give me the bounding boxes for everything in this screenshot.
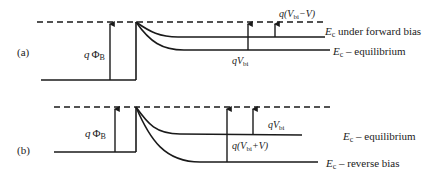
ec-equilibrium-label: Ec – equilibrium xyxy=(342,130,416,144)
panel-a: (a) qΦB qVbi q(Vbi−V) Ec under forward b… xyxy=(17,8,421,80)
schottky-band-diagram: (a) qΦB qVbi q(Vbi−V) Ec under forward b… xyxy=(0,0,435,176)
barrier-height-label: qΦB xyxy=(84,48,105,62)
panel-b-label: (b) xyxy=(17,144,30,157)
forward-barrier-label: q(Vbi−V) xyxy=(279,8,316,21)
panel-a-label: (a) xyxy=(17,46,30,59)
vbi-label: qVbi xyxy=(268,119,285,132)
vbi-label: qVbi xyxy=(232,55,249,68)
ec-forward-bias-curve xyxy=(136,22,325,37)
barrier-height-label: qΦB xyxy=(85,127,106,141)
panel-b: (b) qΦB q(Vbi+V) qVbi Ec – equilibrium E… xyxy=(17,107,416,171)
ec-reverse-bias-label: Ec – reverse bias xyxy=(325,157,400,171)
reverse-barrier-label: q(Vbi+V) xyxy=(232,140,269,153)
ec-equilibrium-label: Ec – equilibrium xyxy=(332,45,406,59)
ec-forward-bias-label: Ec under forward bias xyxy=(324,25,421,39)
